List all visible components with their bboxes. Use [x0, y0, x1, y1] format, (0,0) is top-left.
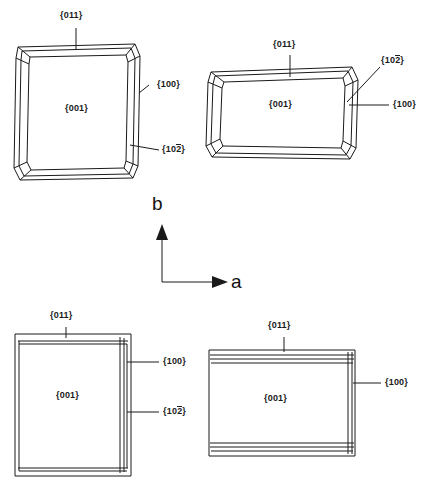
bottom-right-label-100: {100} — [385, 378, 408, 387]
crystal-habit-figure: {011} {001} {100} {102} {011} {001} {102… — [0, 0, 441, 492]
top-left-crease-tl — [18, 47, 30, 57]
top-right-label-102-suffix: } — [400, 55, 404, 65]
axis-b-arrowhead — [156, 224, 168, 240]
axis-a-arrowhead — [212, 276, 228, 288]
top-right-crease-tl — [211, 72, 224, 82]
top-left-label-100: {100} — [157, 80, 180, 89]
crystal-top-right-drawing — [206, 55, 389, 159]
bottom-left-label-100: {100} — [163, 357, 186, 366]
top-right-outer-outline — [206, 67, 358, 159]
top-left-crease-l-bot — [14, 162, 27, 168]
bottom-right-label-001: {001} — [264, 394, 287, 403]
top-right-label-001: {001} — [269, 100, 292, 109]
bottom-left-label-102-suffix: } — [182, 406, 186, 416]
bottom-right-outer-outline — [209, 350, 355, 456]
top-right-leader-102 — [347, 67, 380, 102]
crystal-bottom-right-drawing — [209, 337, 381, 456]
top-left-leader-102 — [130, 145, 159, 150]
top-right-label-011: {011} — [273, 40, 296, 49]
top-left-crease-r-top — [128, 56, 140, 62]
axis-label-a: a — [231, 272, 242, 291]
top-right-label-102: {102} — [381, 56, 404, 65]
bottom-left-label-001: {001} — [56, 391, 79, 400]
top-right-crease-r-bot — [343, 141, 356, 148]
top-left-leader-100 — [139, 85, 149, 93]
bottom-left-label-102-overbar-digit: 2 — [177, 407, 182, 416]
top-left-label-102-suffix: } — [181, 144, 185, 154]
top-left-crease-l-top — [16, 58, 29, 64]
top-right-label-102-prefix: {10 — [381, 55, 395, 65]
bottom-left-label-102-prefix: {10 — [163, 406, 177, 416]
top-right-crease-l-top — [208, 82, 222, 88]
top-right-inner-face — [220, 78, 345, 148]
top-left-label-102-overbar-digit: 2 — [176, 145, 181, 154]
bottom-left-label-011: {011} — [50, 311, 73, 320]
top-right-label-100: {100} — [393, 100, 416, 109]
top-left-label-102: {102} — [162, 145, 185, 154]
bottom-right-label-011: {011} — [268, 321, 291, 330]
top-right-crease-l-bot — [206, 139, 220, 146]
top-right-crease-r-top — [345, 80, 358, 86]
top-left-crease-br — [124, 168, 133, 178]
top-right-bevel-band — [211, 71, 353, 155]
top-left-label-011: {011} — [60, 11, 83, 20]
bottom-left-outer-outline — [15, 334, 131, 476]
top-right-label-102-overbar-digit: 2 — [395, 56, 400, 65]
top-left-label-102-prefix: {10 — [162, 144, 176, 154]
top-left-label-001: {001} — [65, 104, 88, 113]
axis-label-b: b — [152, 194, 163, 213]
crystal-bottom-left-drawing — [15, 327, 159, 476]
crystal-drawings-canvas — [0, 0, 441, 492]
bottom-left-label-102: {102} — [163, 407, 186, 416]
axis-indicator — [156, 224, 228, 288]
top-right-crease-bl — [212, 146, 223, 157]
